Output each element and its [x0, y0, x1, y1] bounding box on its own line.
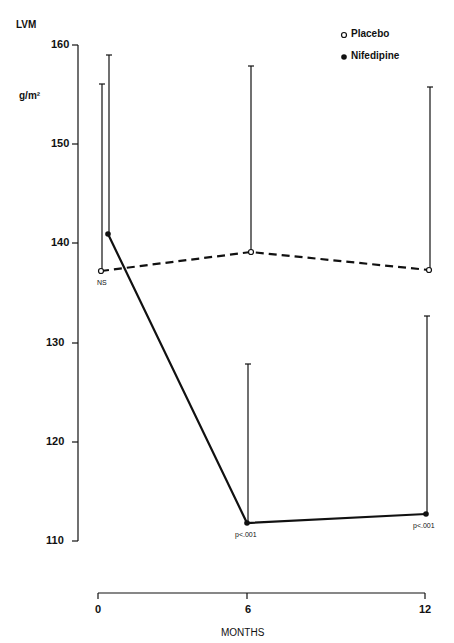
series-nifedipine-line [108, 234, 426, 523]
xtick-6: 6 [245, 603, 251, 615]
legend-placebo-marker-icon [342, 33, 347, 38]
xtick-0: 0 [95, 603, 101, 615]
ytick-110: 110 [46, 534, 64, 546]
y-axis-unit: g/m² [19, 90, 40, 101]
ytick-140: 140 [51, 236, 69, 248]
x-axis [98, 593, 425, 599]
error-bars [99, 55, 433, 523]
annotation-p6: p<.001 [235, 531, 257, 538]
placebo-markers [99, 250, 432, 274]
y-axis-title: LVM [16, 19, 36, 30]
chart-canvas [0, 0, 454, 643]
nifedipine-markers [105, 231, 429, 526]
legend-nifedipine-label: Nifedipine [351, 50, 399, 61]
legend-placebo-label: Placebo [351, 28, 389, 39]
ytick-150: 150 [51, 137, 69, 149]
ytick-120: 120 [46, 435, 64, 447]
series-placebo-line [101, 252, 429, 271]
ytick-160: 160 [51, 38, 69, 50]
legend-nifedipine-marker-icon [341, 54, 347, 60]
ytick-130: 130 [46, 336, 64, 348]
x-axis-title: MONTHS [221, 627, 264, 638]
annotation-ns: NS [97, 279, 107, 286]
annotation-p12: p<.001 [413, 522, 435, 529]
xtick-12: 12 [419, 603, 431, 615]
y-axis [72, 45, 78, 541]
